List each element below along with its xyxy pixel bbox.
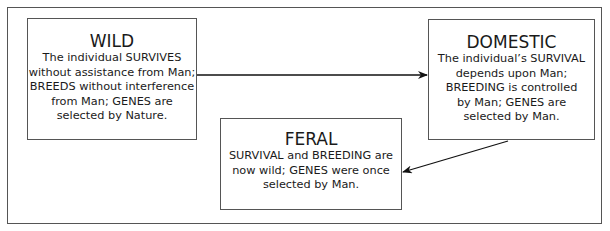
feral-desc-line: selected by Man. — [221, 178, 401, 193]
wild-desc-line: The individual SURVIVES — [28, 51, 196, 66]
domestic-desc-line: The individual’s SURVIVAL — [429, 52, 594, 67]
domestic-desc-line: by Man; GENES are — [429, 96, 594, 111]
feral-desc-line: SURVIVAL and BREEDING are — [221, 149, 401, 164]
domestic-desc-line: BREEDING is controlled — [429, 81, 594, 96]
domestic-node: DOMESTIC The individual’s SURVIVAL depen… — [428, 19, 595, 140]
wild-desc-line: selected by Nature. — [28, 109, 196, 124]
domestic-desc-line: depends upon Man; — [429, 67, 594, 82]
domestic-desc-line: selected by Man. — [429, 110, 594, 125]
wild-node: WILD The individual SURVIVES without ass… — [27, 18, 197, 140]
feral-title: FERAL — [221, 130, 401, 149]
feral-desc-line: now wild; GENES were once — [221, 164, 401, 179]
feral-node: FERAL SURVIVAL and BREEDING are now wild… — [220, 118, 402, 210]
wild-title: WILD — [28, 32, 196, 51]
wild-desc-line: without assistance from Man; — [28, 66, 196, 81]
domestic-title: DOMESTIC — [429, 33, 594, 52]
wild-desc-line: from Man; GENES are — [28, 95, 196, 110]
wild-desc-line: BREEDS without interference — [28, 80, 196, 95]
